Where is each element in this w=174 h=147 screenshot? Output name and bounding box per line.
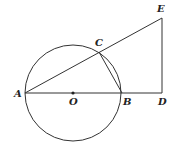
label-a: A: [13, 88, 22, 99]
label-c: C: [95, 37, 103, 48]
label-o: O: [69, 96, 78, 107]
segments: [25, 18, 162, 93]
label-b: B: [122, 96, 131, 107]
center-point-o: [71, 91, 74, 94]
label-e: E: [156, 3, 165, 14]
segment-cb: [99, 52, 122, 93]
diagram-svg: A O B C D E: [0, 0, 174, 147]
segment-ae: [25, 18, 162, 93]
label-d: D: [157, 96, 167, 107]
geometry-diagram: A O B C D E: [0, 0, 174, 147]
